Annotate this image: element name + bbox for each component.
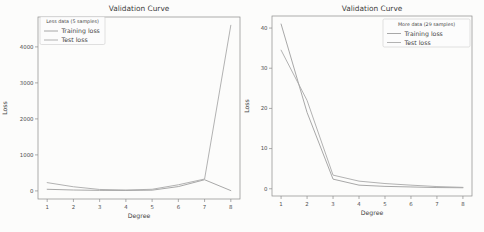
x-tick-label: 7 [435,201,438,207]
y-axis-label: Loss [243,99,250,113]
training-loss-line [281,24,463,188]
y-axis-label: Loss [1,101,8,115]
x-tick-label: 2 [72,204,75,210]
x-tick-label: 1 [45,204,48,210]
y-tick-label: 1000 [20,152,34,158]
legend-label-test-loss: Test loss [61,36,88,43]
legend-title: Less data (5 samples) [46,19,99,24]
y-tick-label: 2000 [20,116,34,122]
y-tick-label: 20 [261,105,268,111]
test-loss-line [281,50,463,187]
legend-label-test-loss: Test loss [404,39,431,46]
chart-canvas: Validation Curve01020304012345678DegreeL… [242,0,484,232]
x-tick-label: 4 [357,201,361,207]
x-tick-label: 7 [203,204,206,210]
x-tick-label: 4 [124,204,128,210]
y-tick-label: 40 [261,25,268,31]
validation-curves-figure: Validation Curve010002000300040001234567… [0,0,484,232]
y-tick-label: 10 [261,145,268,151]
y-tick-label: 3000 [20,80,34,86]
chart-title: Validation Curve [109,4,170,13]
x-tick-label: 1 [279,201,282,207]
y-tick-label: 0 [30,188,34,194]
x-tick-label: 8 [461,201,465,207]
x-axis-label: Degree [128,212,151,220]
x-tick-label: 6 [177,204,181,210]
x-tick-label: 3 [331,201,334,207]
x-tick-label: 2 [305,201,308,207]
y-tick-label: 30 [261,65,268,71]
chart-canvas: Validation Curve010002000300040001234567… [0,0,242,232]
test-loss-line [47,25,231,190]
x-tick-label: 8 [229,204,233,210]
x-tick-label: 5 [383,201,386,207]
chart-title: Validation Curve [342,4,403,13]
x-axis-label: Degree [361,209,384,217]
y-tick-label: 0 [264,186,268,192]
legend-label-training-loss: Training loss [404,30,443,38]
subplot-more-data: Validation Curve01020304012345678DegreeL… [242,0,484,232]
training-loss-line [47,180,231,191]
legend-title: More data (29 samples) [398,22,455,27]
subplot-less-data: Validation Curve010002000300040001234567… [0,0,242,232]
x-tick-label: 3 [98,204,101,210]
y-tick-label: 4000 [20,44,34,50]
x-tick-label: 6 [409,201,413,207]
legend-label-training-loss: Training loss [61,27,100,35]
x-tick-label: 5 [150,204,153,210]
